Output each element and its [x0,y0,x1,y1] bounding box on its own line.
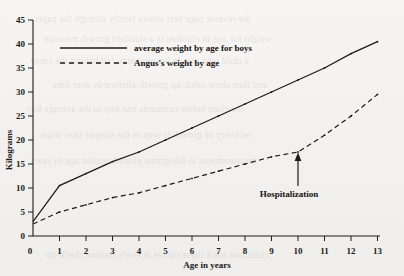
x-tick-label: 5 [163,246,168,256]
weight-for-age-chart-figure: the reverse page text shows faintly thro… [0,0,404,276]
x-axis-title: Age in years [183,260,231,270]
annotation-label-hospitalization: Hospitalization [260,189,319,199]
x-tick-label: 1 [57,246,62,256]
y-tick-label: 5 [21,207,26,217]
x-tick-label: 9 [269,246,274,256]
x-axis-tick-labels: 0 1 2 3 4 5 6 7 8 9 10 11 12 13 [28,246,383,256]
x-tick-label: 2 [84,246,89,256]
legend-label-angus-weight: Angus's weight by age [134,58,219,68]
x-tick-label: 8 [243,246,248,256]
y-tick-label: 10 [16,183,26,193]
x-tick-label: 10 [294,246,304,256]
series-angus-weight-markers [59,94,379,213]
y-tick-label: 35 [16,63,26,73]
y-tick-label: 20 [16,135,26,145]
series-average-weight-line [33,42,378,222]
x-tick-label-origin: 0 [28,246,33,256]
y-tick-label: 40 [16,39,26,49]
x-tick-label: 4 [137,246,142,256]
y-tick-label: 25 [16,111,26,121]
x-tick-label: 3 [110,246,115,256]
hospitalization-annotation: Hospitalization [260,153,319,200]
y-tick-label: 30 [16,87,26,97]
y-tick-label: 15 [16,159,26,169]
y-tick-label: 45 [16,15,26,25]
up-arrow-icon [295,153,302,162]
series-angus-weight-line [33,94,378,224]
legend-label-average-weight: average weight by age for boys [134,43,253,53]
y-tick-label: 0 [21,231,26,241]
x-tick-label: 13 [373,246,383,256]
chart-legend: average weight by age for boys Angus's w… [60,43,253,68]
chart-plot-area: 0 5 10 15 20 25 30 35 40 45 [0,0,404,276]
x-tick-label: 6 [190,246,195,256]
x-axis-ticks [60,236,378,241]
x-tick-label: 7 [216,246,221,256]
y-axis-ticks [28,20,33,236]
x-tick-label: 12 [347,246,357,256]
y-axis-tick-labels: 0 5 10 15 20 25 30 35 40 45 [16,15,26,241]
x-tick-label: 11 [320,246,329,256]
y-axis-title: Kilograms [4,129,14,170]
